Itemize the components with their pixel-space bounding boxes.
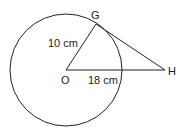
label-oh-length: 18 cm — [88, 74, 118, 86]
label-og-length: 10 cm — [48, 37, 78, 49]
label-h: H — [168, 65, 176, 77]
label-g: G — [91, 9, 100, 21]
circle-tangent-diagram: G H O 10 cm 18 cm — [0, 0, 184, 130]
tangent-gh — [96, 24, 165, 70]
label-o: O — [61, 74, 70, 86]
